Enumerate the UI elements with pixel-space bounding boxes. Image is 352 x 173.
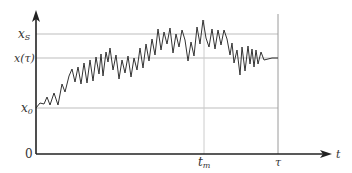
- label-xtau: x(τ): [14, 52, 35, 65]
- label-origin: 0: [25, 147, 33, 161]
- label-tm: tm: [198, 155, 211, 170]
- label-x0: x0: [21, 101, 33, 116]
- chart-canvas: xS x(τ) x0 0 tm τ t: [0, 0, 352, 173]
- label-t-axis: t: [336, 148, 341, 161]
- trajectory-line: [36, 20, 278, 108]
- label-xs: xS: [18, 27, 31, 42]
- label-tau: τ: [275, 156, 282, 169]
